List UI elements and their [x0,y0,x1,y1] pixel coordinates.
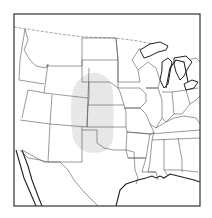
us-map [0,0,212,218]
great-lakes [140,42,198,90]
us-canada-border [14,27,152,44]
mexico-border [22,150,60,162]
pacific-coast [16,150,36,206]
highlighted-region [71,73,114,153]
